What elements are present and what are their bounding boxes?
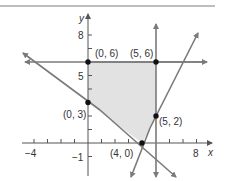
- point-label-0-6: (0, 6): [95, 48, 118, 59]
- point-label-4-0: (4, 0): [110, 148, 133, 159]
- point-label-5-6: (5, 6): [130, 48, 153, 59]
- feasible-region: [88, 62, 156, 143]
- y-tick-label-5: 5: [78, 71, 84, 82]
- point-4-0: [139, 140, 144, 145]
- x-tick-label-neg4: −4: [25, 148, 37, 159]
- x-tick-label-8: 8: [193, 148, 199, 159]
- point-5-6: [153, 59, 158, 64]
- point-0-3: [85, 100, 90, 105]
- point-label-5-2: (5, 2): [159, 116, 182, 127]
- y-axis-label: y: [78, 13, 85, 24]
- y-tick-label-neg1: −1: [72, 152, 84, 163]
- point-5-2: [153, 113, 158, 118]
- x-axis-ticks: [34, 139, 197, 143]
- point-0-6: [85, 59, 90, 64]
- feasible-region-graph: y x 8 5 −1 −4 8 (0, 6) (5, 6) (0, 3) (5,…: [0, 0, 228, 181]
- x-axis-label: x: [207, 147, 214, 158]
- y-tick-label-8: 8: [78, 30, 84, 41]
- point-label-0-3: (0, 3): [63, 109, 86, 120]
